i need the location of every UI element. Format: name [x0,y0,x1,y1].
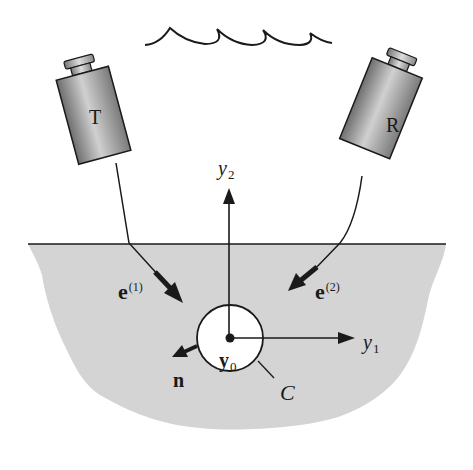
scattering-diagram: T R y2 y1 e(1) e(2) n y0 C [0,0,473,470]
y2-subscript: 2 [228,167,235,182]
transmitter-label: T [89,107,101,127]
contour-label: C [280,382,295,404]
normal-label: n [173,370,184,390]
y2-arrowhead [223,188,235,204]
water-surface-waves [145,28,332,45]
diagram-canvas [0,0,473,470]
e2-superscript: (2) [326,280,340,294]
e1-base: e [118,279,128,304]
y2-base: y [218,157,227,179]
y0-subscript: 0 [230,359,237,374]
y1-subscript: 1 [373,341,380,356]
receiver-device [340,43,429,159]
e2-label: e(2) [315,281,340,303]
receiver-label: R [386,115,399,135]
origin-point [226,334,235,343]
e1-label: e(1) [118,281,143,303]
y2-label: y2 [218,158,234,181]
y0-label: y0 [219,350,237,373]
y1-label: y1 [363,332,379,355]
e2-base: e [315,279,325,304]
e1-superscript: (1) [129,280,143,294]
y1-base: y [363,331,372,353]
y0-base: y [219,349,229,371]
